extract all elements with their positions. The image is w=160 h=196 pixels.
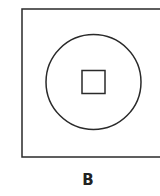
inner-square — [82, 71, 105, 94]
outer-square — [22, 9, 160, 157]
circle — [46, 35, 141, 130]
diagram-figure — [0, 0, 160, 196]
figure-label: B — [0, 171, 160, 189]
